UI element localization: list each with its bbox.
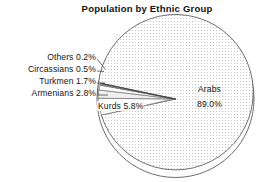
slice-label-arabs-name: Arabs bbox=[198, 84, 221, 94]
callout-label-group: Others 0.2% Circassians 0.5% Turkmen 1.7… bbox=[0, 51, 96, 99]
callout-label-turkmen: Turkmen 1.7% bbox=[0, 75, 96, 87]
slice-label-arabs: Arabs 89.0% bbox=[196, 84, 223, 109]
slice-label-arabs-value: 89.0% bbox=[197, 99, 222, 109]
pie-chart-figure: Population by Ethnic Group bbox=[0, 0, 266, 182]
callout-label-others: Others 0.2% bbox=[0, 51, 96, 63]
slice-label-kurds: Kurds 5.8% bbox=[97, 101, 144, 111]
callout-label-armenians: Armenians 2.8% bbox=[0, 87, 96, 99]
leader-line-circassians bbox=[97, 71, 104, 72]
callout-label-circassians: Circassians 0.5% bbox=[0, 63, 96, 75]
